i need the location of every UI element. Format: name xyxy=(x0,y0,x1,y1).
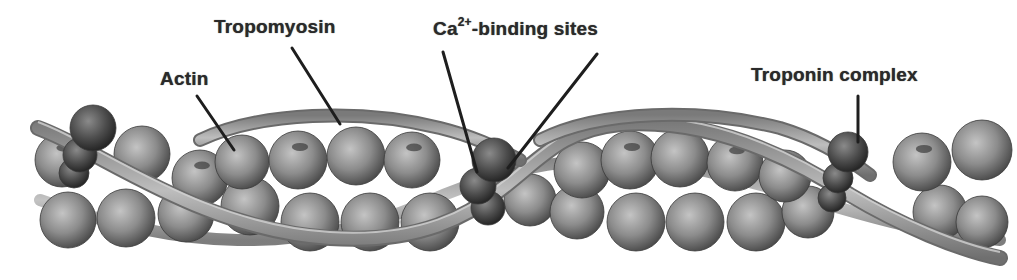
binding-sites-text: -binding sites xyxy=(472,18,598,39)
myosin-binding-site xyxy=(916,145,932,153)
troponin-complex-label: Troponin complex xyxy=(751,64,918,86)
troponin-subunit xyxy=(472,138,516,182)
calcium-charge: 2+ xyxy=(458,15,472,29)
troponin-subunit xyxy=(828,132,868,172)
actin-monomer xyxy=(327,127,385,185)
actin-monomer xyxy=(893,133,951,191)
myosin-binding-site xyxy=(194,161,210,169)
actin-monomer xyxy=(666,193,724,251)
actin-monomer xyxy=(384,132,440,188)
actin-monomer xyxy=(269,131,327,189)
actin-monomer xyxy=(727,193,785,251)
troponin-subunit xyxy=(70,105,116,151)
troponin-left xyxy=(59,105,116,188)
actin-monomer xyxy=(601,131,659,189)
actin-label: Actin xyxy=(160,68,209,90)
actin-monomer xyxy=(607,193,665,251)
calcium-symbol: Ca xyxy=(433,18,458,39)
actin-monomer xyxy=(97,189,155,247)
thin-filament-diagram xyxy=(0,0,1017,280)
tropomyosin-label: Tropomyosin xyxy=(214,16,336,38)
calcium-leader-1 xyxy=(443,52,477,172)
myosin-binding-site xyxy=(406,143,422,151)
actin-monomer xyxy=(952,120,1012,180)
actin-monomer xyxy=(40,192,96,248)
myosin-binding-site xyxy=(624,143,640,151)
myosin-binding-site xyxy=(292,143,308,151)
actin-monomer xyxy=(215,135,269,189)
calcium-binding-sites-label: Ca2+-binding sites xyxy=(433,17,598,40)
